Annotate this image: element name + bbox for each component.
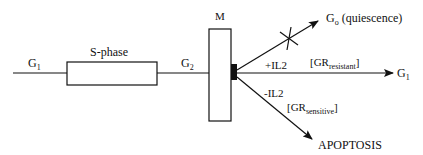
g1-start-label: G1 (28, 56, 41, 72)
minus-il2-label: -IL2 (264, 87, 284, 99)
mitosis-box (209, 29, 231, 121)
decision-block (231, 64, 237, 80)
g1-target-label: G1 (397, 66, 410, 82)
mitosis-label: M (215, 10, 225, 22)
s-phase-label: S-phase (90, 45, 128, 59)
s-phase-box (67, 62, 157, 85)
cell-cycle-diagram: G1 S-phase G2 M Go (quiescence) +IL2 [GR… (0, 0, 423, 155)
apoptosis-label: APOPTOSIS (318, 138, 382, 152)
plus-il2-label: +IL2 (265, 59, 287, 71)
gr-sensitive-label: [GRsensitive] (287, 101, 338, 116)
g2-label: G2 (181, 56, 194, 72)
quiescence-label: Go (quiescence) (326, 11, 402, 27)
blocked-x-icon (280, 27, 298, 50)
gr-resistant-label: [GRresistant] (310, 56, 359, 71)
